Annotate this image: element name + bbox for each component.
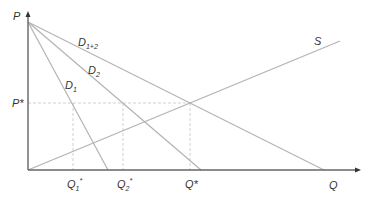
curve-label-subscript: 1 — [73, 86, 77, 93]
marker-star: * — [79, 177, 82, 184]
demand-curve-d1-plus-2 — [28, 22, 324, 170]
price-marker-p-star: P* — [12, 97, 24, 109]
curve-label-d2: D2 — [88, 64, 100, 78]
curve-label-subscript: 1+2 — [86, 43, 98, 50]
quantity-marker-q1-star: Q1* — [67, 177, 82, 192]
y-axis-arrow-icon — [26, 11, 31, 17]
quantity-marker-q2-star: Q2* — [117, 177, 132, 192]
curve-label-text: D — [65, 79, 73, 91]
curve-label-text: D — [78, 36, 86, 48]
marker-star: * — [129, 177, 132, 184]
x-axis-label: Q — [329, 179, 338, 191]
marker-subscript: 1 — [76, 185, 80, 192]
x-axis-arrow-icon — [355, 168, 361, 173]
curve-label-subscript: 2 — [95, 71, 100, 78]
curve-label-text: D — [88, 64, 96, 76]
quantity-marker-q-star: Q* — [185, 178, 199, 190]
supply-curve-s — [28, 41, 340, 170]
marker-subscript: 2 — [125, 185, 130, 192]
curve-label-s: S — [314, 35, 322, 47]
y-axis-label: P — [13, 10, 21, 22]
curves — [28, 22, 340, 170]
curve-label-d1-plus-2: D1+2 — [78, 36, 98, 50]
supply-demand-diagram: P Q D1+2 D2 D1 S P* Q1* Q2* Q* — [0, 0, 373, 198]
curve-label-d1: D1 — [65, 79, 77, 93]
